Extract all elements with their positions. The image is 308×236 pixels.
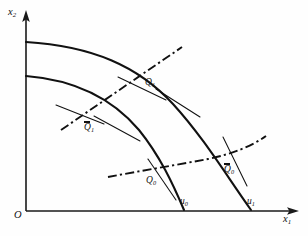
axes-group [22,10,299,215]
outer-transformation-curve [26,42,251,210]
figure-root: x2 x1 O Q1 Q1 Q0 Q0 u0 u1 [0,0,308,236]
transformation-curves-group [26,42,251,210]
expansion-paths-group [61,47,266,177]
diagram-canvas [0,0,308,236]
inner-transformation-curve [26,76,184,210]
point-label-q1-bar: Q1 [84,123,94,133]
tangent-line-q1-upper [118,77,166,100]
x-intercept-label-u0: u0 [180,197,188,207]
tangent-line-q0bar [223,137,247,186]
tangent-line-q1-lower [156,89,200,117]
expansion-path-curve [108,136,266,177]
overbar-q1: Q [84,123,91,133]
point-label-q0: Q0 [146,176,156,186]
origin-label: O [14,210,22,221]
tangent-line-q1bar-lower [94,116,140,141]
tangent-line-q1bar-upper [56,105,104,124]
point-label-q0-bar: Q0 [224,165,234,175]
x-axis-label: x1 [283,214,291,225]
y-axis-label: x2 [8,7,16,18]
overbar-q0: Q [224,165,231,175]
x-intercept-label-u1: u1 [247,197,255,207]
point-label-q1: Q1 [145,78,155,88]
